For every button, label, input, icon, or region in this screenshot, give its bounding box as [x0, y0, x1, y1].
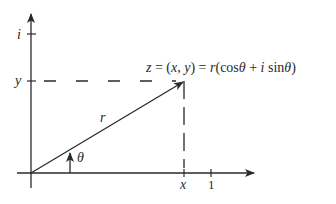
formula-eq1: = (	[151, 60, 171, 76]
angle-label: θ	[77, 150, 84, 165]
formula-plus: +	[246, 60, 261, 75]
polar-form-equation: z = (x, y) = r(cosθ + i sinθ)	[145, 60, 296, 76]
imaginary-unit-label: i	[17, 27, 21, 42]
vector-r	[31, 82, 183, 173]
unit-tick-label: 1	[208, 177, 215, 192]
formula-eq2: ) =	[190, 60, 210, 76]
formula-comma: ,	[177, 60, 184, 75]
complex-plane-diagram: i y x 1 r θ z = (x, y) = r(cosθ + i sinθ…	[0, 0, 336, 204]
formula-cos: (cos	[215, 60, 238, 76]
y-tick-label: y	[13, 73, 22, 88]
formula-sin: sin	[264, 60, 284, 75]
formula-close: )	[291, 60, 296, 76]
x-tick-label: x	[179, 177, 187, 192]
vector-magnitude-label: r	[100, 110, 106, 125]
